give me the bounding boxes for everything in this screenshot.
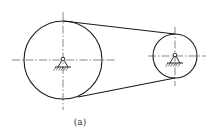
- belt-upper-span: [63, 21, 175, 34]
- belt-lower-span: [78, 78, 175, 97]
- large-pulley-support-icon: [54, 57, 72, 70]
- belt: [63, 21, 175, 97]
- belt-drive-diagram: [0, 0, 217, 135]
- small-pulley-support-icon: [166, 53, 184, 66]
- figure-caption: (a): [0, 117, 160, 127]
